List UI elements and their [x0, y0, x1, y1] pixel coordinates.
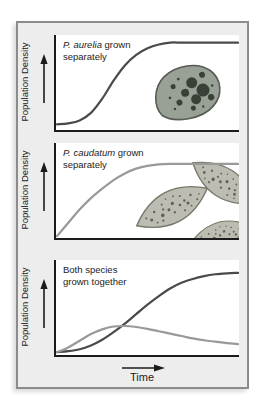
p-aurelia-cell-illustration	[149, 59, 226, 126]
panel3-caption: Both species grown together	[63, 264, 126, 288]
panel1-caption-line2: separately	[63, 51, 130, 63]
y-axis-label-panel1: Population Density	[19, 32, 33, 132]
panel-aurelia-separate: P. aurelia grown separately	[54, 35, 239, 132]
panel-both-species: Both species grown together	[54, 260, 239, 357]
figure-frame: Population Density P. aurelia grown sepa…	[16, 21, 249, 389]
panel2-caption: P. caudatum grown separately	[63, 147, 144, 171]
x-axis-label: Time	[111, 371, 173, 383]
panel2-caption-line2: separately	[63, 159, 144, 171]
y-axis-up-arrow-icon	[38, 53, 50, 105]
y-axis-label-panel3: Population Density	[19, 257, 33, 357]
panel3-caption-line2: grown together	[63, 276, 126, 288]
p-caudatum-cell-illustration	[129, 174, 215, 238]
species-name-italic: P. aurelia	[63, 39, 102, 50]
p-caudatum-cell-illustration	[190, 215, 239, 238]
panel1-caption-line1: P. aurelia grown	[63, 39, 130, 51]
panel-caudatum-separate: P. caudatum grown separately	[54, 143, 239, 240]
panel1-caption: P. aurelia grown separately	[63, 39, 130, 63]
species-name-italic: P. caudatum	[63, 147, 115, 158]
panel3-caption-line1: Both species	[63, 264, 126, 276]
panel2-caption-line1: P. caudatum grown	[63, 147, 144, 159]
y-axis-label-panel2: Population Density	[19, 140, 33, 240]
y-axis-up-arrow-icon	[38, 278, 50, 330]
y-axis-up-arrow-icon	[38, 161, 50, 213]
figure-page: Population Density P. aurelia grown sepa…	[0, 0, 256, 398]
